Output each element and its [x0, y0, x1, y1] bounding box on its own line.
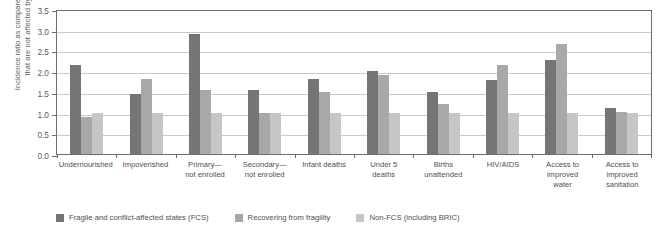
- x-axis-tick: [176, 154, 177, 158]
- y-axis-title-line: that are not affected by violence: [23, 0, 33, 97]
- bar: [556, 44, 567, 154]
- x-axis-category-label: Under 5deaths: [354, 160, 414, 189]
- legend-swatch: [56, 214, 64, 222]
- y-axis-tick-label: 3.5: [37, 6, 49, 16]
- x-axis-category-label-line: Births: [415, 160, 473, 170]
- x-axis-category-label-line: Access to: [534, 160, 592, 170]
- x-axis-tick: [57, 154, 58, 158]
- bar: [141, 79, 152, 154]
- bar: [152, 113, 163, 154]
- x-axis-category-label-line: HIV/AIDS: [474, 160, 532, 170]
- bar-group: [473, 11, 532, 154]
- x-axis-category-label: Access toimprovedwater: [533, 160, 593, 189]
- bar: [211, 113, 222, 154]
- bar-groups: [57, 11, 651, 154]
- bar-group: [532, 11, 591, 154]
- bar: [259, 113, 270, 154]
- bar: [200, 90, 211, 154]
- bar: [486, 80, 497, 154]
- y-axis-tick-label: 1.5: [37, 89, 49, 99]
- y-axis-tick-label: 0.5: [37, 130, 49, 140]
- x-axis-category-label-line: Access to: [593, 160, 651, 170]
- bar: [270, 113, 281, 154]
- bar-group: [116, 11, 175, 154]
- bar: [308, 79, 319, 154]
- y-axis-title: Incidence ratio as compared to countries…: [13, 0, 32, 97]
- x-axis-category-label-line: Secondary—: [236, 160, 294, 170]
- bar: [627, 113, 638, 154]
- x-axis-tick: [592, 154, 593, 158]
- x-axis-category-label-line: improved: [534, 170, 592, 180]
- bar: [567, 113, 578, 154]
- x-axis-tick: [651, 154, 652, 158]
- y-axis-tick-label: 0.0: [37, 151, 49, 161]
- x-axis-category-label: Impoverished: [116, 160, 176, 189]
- bar: [508, 113, 519, 154]
- bar: [319, 92, 330, 154]
- x-axis-tick: [532, 154, 533, 158]
- x-axis-category-label: Secondary—not enrolled: [235, 160, 295, 189]
- x-axis-category-label-line: Infant deaths: [295, 160, 353, 170]
- x-axis-tick: [295, 154, 296, 158]
- x-axis-category-label: Infant deaths: [294, 160, 354, 189]
- bar: [81, 117, 92, 154]
- legend-label: Recovering from fragility: [248, 213, 331, 222]
- bar: [70, 65, 81, 154]
- x-axis-category-label-line: Under 5: [355, 160, 413, 170]
- bar: [616, 112, 627, 154]
- y-axis-tick-label: 1.0: [37, 110, 49, 120]
- plot-area: 0.00.51.01.52.02.53.03.5: [56, 10, 652, 155]
- x-axis-tick: [235, 154, 236, 158]
- x-axis-category-label-line: water: [534, 180, 592, 190]
- x-axis-category-label-line: Impoverished: [117, 160, 175, 170]
- legend-item[interactable]: Fragile and conflict-affected states (FC…: [56, 213, 209, 222]
- bar: [189, 34, 200, 154]
- x-axis-category-label: HIV/AIDS: [473, 160, 533, 189]
- bar: [438, 104, 449, 154]
- x-axis-category-label-line: Primary—: [176, 160, 234, 170]
- chart-legend: Fragile and conflict-affected states (FC…: [56, 213, 486, 222]
- x-axis-category-labels: UndernourishedImpoverishedPrimary—not en…: [56, 160, 652, 189]
- bar: [545, 60, 556, 154]
- x-axis-category-label-line: sanitation: [593, 180, 651, 190]
- x-axis-category-label: Undernourished: [56, 160, 116, 189]
- x-axis-category-label: Primary—not enrolled: [175, 160, 235, 189]
- x-axis-category-label: Access toimprovedsanitation: [592, 160, 652, 189]
- legend-label: Non-FCS (including BRIC): [369, 213, 459, 222]
- x-axis-category-label-line: unattended: [415, 170, 473, 180]
- legend-label: Fragile and conflict-affected states (FC…: [69, 213, 209, 222]
- x-axis-tick: [473, 154, 474, 158]
- bar-group: [235, 11, 294, 154]
- bar-group: [354, 11, 413, 154]
- bar: [497, 65, 508, 154]
- bar: [378, 75, 389, 154]
- x-axis-tick: [116, 154, 117, 158]
- bar: [130, 94, 141, 154]
- bar: [92, 113, 103, 154]
- x-axis-category-label-line: Undernourished: [57, 160, 115, 170]
- bar: [330, 113, 341, 154]
- legend-swatch: [356, 214, 364, 222]
- bar-group: [413, 11, 472, 154]
- y-axis-title-line: Incidence ratio as compared to countries: [13, 0, 23, 97]
- x-axis-category-label-line: deaths: [355, 170, 413, 180]
- x-axis-tick: [354, 154, 355, 158]
- bar: [389, 113, 400, 154]
- legend-swatch: [235, 214, 243, 222]
- y-axis-tick-label: 2.0: [37, 68, 49, 78]
- x-axis-category-label-line: improved: [593, 170, 651, 180]
- x-axis-category-label: Birthsunattended: [414, 160, 474, 189]
- bar: [248, 90, 259, 154]
- bar-group: [57, 11, 116, 154]
- bar: [367, 71, 378, 154]
- x-axis-tick: [413, 154, 414, 158]
- legend-item[interactable]: Recovering from fragility: [235, 213, 331, 222]
- legend-item[interactable]: Non-FCS (including BRIC): [356, 213, 459, 222]
- bar: [449, 113, 460, 154]
- bar: [427, 92, 438, 154]
- y-axis-tick-label: 2.5: [37, 47, 49, 57]
- bar-group: [295, 11, 354, 154]
- x-axis-category-label-line: not enrolled: [236, 170, 294, 180]
- bar: [605, 108, 616, 154]
- x-axis-category-label-line: not enrolled: [176, 170, 234, 180]
